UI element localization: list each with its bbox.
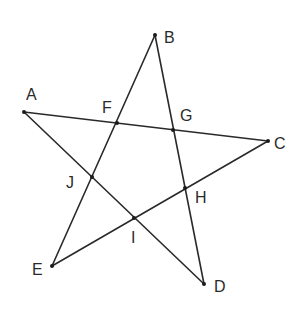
point-J: [90, 175, 94, 179]
point-D: [202, 282, 206, 286]
point-I: [132, 216, 136, 220]
point-C: [266, 139, 270, 143]
point-H: [183, 186, 187, 190]
segment-BE: [52, 35, 155, 266]
label-J: J: [66, 174, 74, 191]
point-G: [171, 128, 175, 132]
label-I: I: [131, 229, 135, 246]
segment-EC: [52, 141, 268, 266]
labels: A B C D E F G H I J: [26, 29, 286, 295]
label-B: B: [164, 29, 175, 46]
label-E: E: [32, 261, 43, 278]
label-D: D: [214, 278, 226, 295]
point-F: [115, 121, 119, 125]
label-H: H: [195, 189, 207, 206]
segment-AC: [24, 112, 268, 141]
label-F: F: [102, 99, 112, 116]
segments: [24, 35, 268, 284]
segment-BD: [155, 35, 204, 284]
label-A: A: [26, 86, 37, 103]
point-A: [22, 110, 26, 114]
pentagram-diagram: A B C D E F G H I J: [0, 0, 301, 311]
label-G: G: [180, 107, 192, 124]
point-B: [153, 33, 157, 37]
label-C: C: [274, 135, 286, 152]
segment-AD: [24, 112, 204, 284]
point-E: [50, 264, 54, 268]
